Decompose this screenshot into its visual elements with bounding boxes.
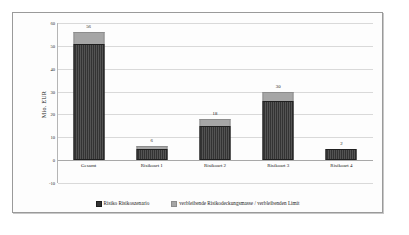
x-axis-category-label: Risikoart 3 bbox=[267, 163, 289, 168]
bar-value-label: 2 bbox=[340, 142, 342, 147]
x-axis-category-label: Risikoart 4 bbox=[330, 163, 352, 168]
bar-group[interactable]: 18 bbox=[183, 23, 246, 183]
legend-swatch-icon bbox=[96, 201, 102, 207]
bar-segment-risk-scenario[interactable] bbox=[326, 149, 357, 160]
bar-value-label: 30 bbox=[276, 85, 281, 90]
bar-value-label: 56 bbox=[86, 25, 91, 30]
bar-series-group: 56618302 bbox=[57, 23, 373, 183]
x-axis-category-label: Risikoart 2 bbox=[204, 163, 226, 168]
legend-swatch-icon bbox=[171, 201, 177, 207]
bar-segment-remaining-capacity[interactable] bbox=[73, 32, 104, 43]
y-axis-title: Mio. EUR bbox=[40, 91, 47, 118]
x-axis-category-labels: GesamtRisikoart 1Risikoart 2Risikoart 3R… bbox=[57, 163, 373, 175]
bar-segment-risk-scenario[interactable] bbox=[136, 149, 167, 160]
y-axis-tick-label: 30 bbox=[50, 90, 55, 95]
bar-segment-remaining-capacity[interactable] bbox=[199, 119, 230, 126]
gridline: -10 bbox=[58, 183, 373, 184]
bar-value-label: 18 bbox=[213, 112, 218, 117]
bar-segment-risk-scenario[interactable] bbox=[199, 126, 230, 160]
legend-label: verbleibende Risikodeckungsmasse / verbl… bbox=[179, 201, 299, 206]
y-axis-tick-label: 0 bbox=[53, 159, 55, 164]
y-axis-tick-label: 20 bbox=[50, 113, 55, 118]
y-axis-tick-label: 40 bbox=[50, 67, 55, 72]
legend-item[interactable]: Risiko Risikoszenario bbox=[96, 201, 150, 207]
legend-label: Risiko Risikoszenario bbox=[104, 201, 150, 206]
chart-frame: Mio. EUR 6050403020100-10 56618302 Gesam… bbox=[12, 12, 383, 213]
bar-group[interactable]: 56 bbox=[57, 23, 120, 183]
bar-segment-risk-scenario[interactable] bbox=[73, 44, 104, 161]
bar-group[interactable]: 6 bbox=[120, 23, 183, 183]
bar-segment-remaining-capacity[interactable] bbox=[263, 92, 294, 101]
bar-segment-risk-scenario[interactable] bbox=[263, 101, 294, 160]
x-axis-category-label: Gesamt bbox=[81, 163, 96, 168]
bar-group[interactable]: 2 bbox=[310, 23, 373, 183]
legend-item[interactable]: verbleibende Risikodeckungsmasse / verbl… bbox=[171, 201, 299, 207]
bar-value-label: 6 bbox=[151, 139, 153, 144]
x-axis-category-label: Risikoart 1 bbox=[141, 163, 163, 168]
chart-legend: Risiko Risikoszenarioverbleibende Risiko… bbox=[13, 201, 382, 207]
y-axis-tick-label: 10 bbox=[50, 136, 55, 141]
y-axis-tick-label: -10 bbox=[49, 182, 55, 187]
y-axis-tick-label: 50 bbox=[50, 45, 55, 50]
bar-group[interactable]: 30 bbox=[247, 23, 310, 183]
y-axis-tick-label: 60 bbox=[50, 22, 55, 27]
